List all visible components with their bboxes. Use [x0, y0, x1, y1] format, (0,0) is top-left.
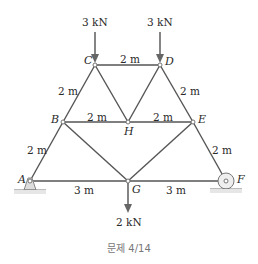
node-label-B: B: [51, 114, 59, 125]
node-label-A: A: [18, 174, 26, 185]
dim-AB: 2 m: [27, 145, 47, 156]
figure-caption: 문제 4/14: [0, 240, 258, 255]
dim-BC: 2 m: [58, 86, 78, 97]
node-label-F: F: [237, 174, 245, 185]
load-label-D: 3 kN: [147, 17, 173, 28]
node-label-G: G: [132, 184, 141, 195]
node-label-D: D: [165, 56, 174, 67]
load-label-G: 2 kN: [116, 217, 142, 228]
dim-DE: 2 m: [180, 86, 200, 97]
dim-BH: 2 m: [87, 112, 107, 123]
dim-GF: 3 m: [166, 185, 186, 196]
dim-AG: 3 m: [74, 185, 94, 196]
node-label-C: C: [84, 55, 92, 66]
node-label-H: H: [124, 126, 134, 137]
dim-CD: 2 m: [120, 54, 140, 65]
load-label-C: 3 kN: [82, 17, 108, 28]
dim-EF: 2 m: [212, 145, 232, 156]
node-label-E: E: [198, 114, 206, 125]
dim-HE: 2 m: [153, 112, 173, 123]
